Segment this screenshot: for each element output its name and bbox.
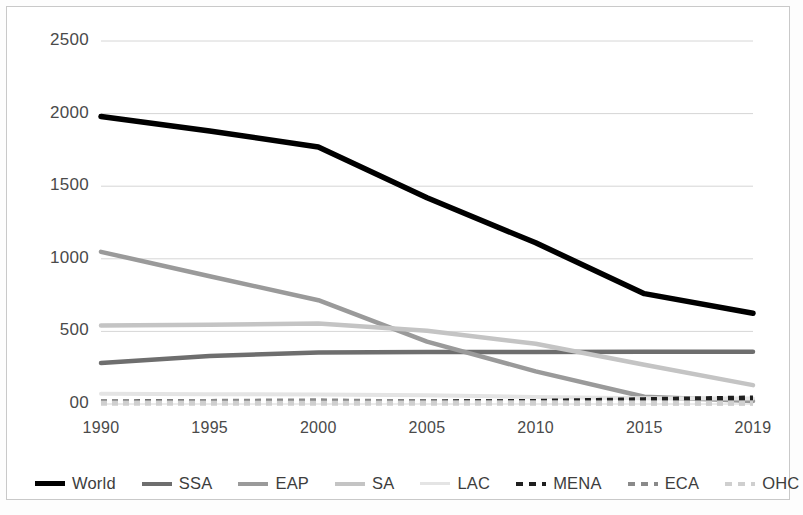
legend-entry-mena[interactable]: MENA (516, 474, 601, 493)
series-line-world (101, 117, 753, 314)
legend-label: EAP (275, 474, 309, 493)
legend-label: MENA (553, 474, 601, 493)
legend-entry-ohc[interactable]: OHC (725, 474, 799, 493)
legend-swatch-icon (238, 482, 268, 486)
legend-swatch-icon (420, 482, 450, 485)
legend-entry-ssa[interactable]: SSA (142, 474, 213, 493)
legend-entry-eca[interactable]: ECA (628, 474, 700, 493)
legend-label: SSA (179, 474, 213, 493)
legend-label: OHC (762, 474, 799, 493)
legend-label: World (72, 474, 116, 493)
legend-swatch-icon (142, 482, 172, 486)
series-line-sa (101, 323, 753, 385)
line-chart-plot (7, 7, 789, 499)
series-line-ssa (101, 352, 753, 363)
legend-swatch-icon (35, 481, 65, 486)
chart-legend: WorldSSAEAPSALACMENAECAOHC (35, 469, 780, 497)
legend-entry-lac[interactable]: LAC (420, 474, 490, 493)
legend-entry-world[interactable]: World (35, 474, 116, 493)
legend-swatch-icon (335, 482, 365, 486)
legend-swatch-icon (516, 482, 546, 486)
legend-entry-sa[interactable]: SA (335, 474, 394, 493)
legend-label: ECA (665, 474, 700, 493)
legend-label: SA (372, 474, 394, 493)
legend-swatch-icon (628, 482, 658, 486)
legend-entry-eap[interactable]: EAP (238, 474, 309, 493)
chart-screenshot: 250020001500100050000 199019952000200520… (0, 0, 803, 515)
legend-label: LAC (457, 474, 490, 493)
chart-frame: 250020001500100050000 199019952000200520… (6, 6, 790, 500)
legend-swatch-icon (725, 482, 755, 486)
